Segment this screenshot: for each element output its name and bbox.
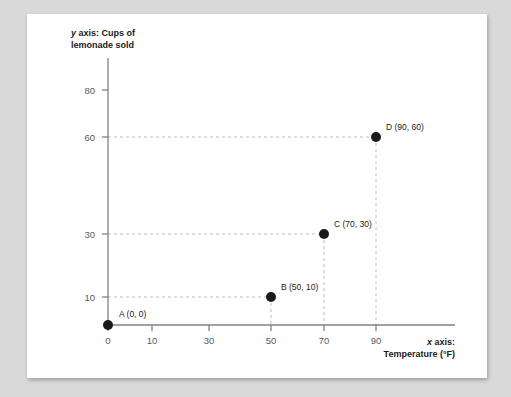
- y-axis-ticks: [102, 90, 108, 297]
- x-tick-label-0: 0: [105, 335, 110, 346]
- data-point-d[interactable]: [371, 132, 381, 142]
- x-axis-title-line2: Temperature (°F): [384, 349, 455, 359]
- x-axis-title: x axis: Temperature (°F): [384, 337, 455, 359]
- x-tick-label-90: 90: [371, 335, 382, 346]
- y-axis-title-line2: lemonade sold: [71, 40, 134, 50]
- data-point-a[interactable]: [103, 320, 113, 330]
- scatter-plot: 80 60 30 10 0 10 30 50 70 90: [27, 14, 487, 378]
- y-tick-label-80: 80: [84, 85, 95, 96]
- y-tick-label-10: 10: [84, 292, 95, 303]
- x-axis-ticks: [108, 325, 376, 331]
- x-tick-label-10: 10: [147, 335, 158, 346]
- svg-text:x axis:: x axis:: [426, 337, 455, 347]
- y-axis-title: y axis: Cups of lemonade sold: [70, 28, 136, 50]
- data-point-c[interactable]: [319, 229, 329, 239]
- data-point-label-b: B (50, 10): [281, 282, 318, 292]
- svg-text:y axis: Cups of: y axis: Cups of: [70, 28, 136, 38]
- chart-card: 80 60 30 10 0 10 30 50 70 90: [27, 14, 487, 378]
- data-point-label-a: A (0, 0): [119, 309, 147, 319]
- y-tick-label-30: 30: [84, 229, 95, 240]
- data-point-label-c: C (70, 30): [334, 219, 372, 229]
- data-point-b[interactable]: [266, 292, 276, 302]
- gridlines-horizontal: [108, 137, 376, 297]
- data-points: [103, 132, 381, 330]
- x-tick-label-70: 70: [319, 335, 330, 346]
- data-point-label-d: D (90, 60): [386, 122, 424, 132]
- x-axis-title-line1: axis:: [432, 337, 455, 347]
- x-tick-label-30: 30: [204, 335, 215, 346]
- y-tick-label-60: 60: [84, 132, 95, 143]
- plot-svg: 80 60 30 10 0 10 30 50 70 90: [27, 14, 487, 378]
- x-tick-label-50: 50: [266, 335, 277, 346]
- y-axis-title-line1: axis: Cups of: [76, 28, 136, 38]
